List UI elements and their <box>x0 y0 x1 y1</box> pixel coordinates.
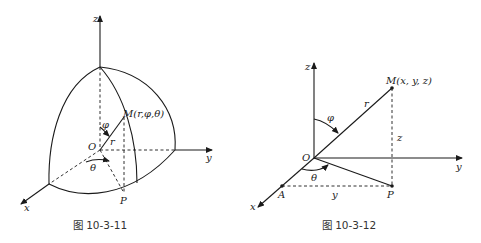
label-y: y <box>205 152 212 163</box>
figure-coordinate-relations: z y x O M(x, y, z) r φ θ z y A P 图 10-3-… <box>250 61 462 231</box>
label-x: x <box>24 202 30 213</box>
point-M <box>390 86 394 90</box>
line-OP <box>100 150 124 193</box>
label-O: O <box>88 141 96 152</box>
label-theta: θ <box>90 162 96 173</box>
label-y-length: y <box>331 189 338 200</box>
label-z: z <box>304 61 311 72</box>
label-M: M(x, y, z) <box>385 75 432 86</box>
point-A <box>280 184 284 188</box>
label-y: y <box>455 161 462 172</box>
figure-caption: 图 10-3-12 <box>322 219 376 231</box>
label-z-length: z <box>396 132 403 143</box>
phi-arrow <box>314 119 338 133</box>
label-z: z <box>92 13 99 24</box>
x-axis <box>258 158 314 207</box>
label-P: P <box>119 195 127 206</box>
point-P <box>390 184 394 188</box>
label-P: P <box>386 189 394 200</box>
x-axis <box>21 184 49 204</box>
line-OP <box>314 158 392 186</box>
figure-caption: 图 10-3-11 <box>73 219 127 231</box>
label-r: r <box>364 98 370 109</box>
label-r: r <box>110 136 116 147</box>
label-theta: θ <box>311 172 317 183</box>
label-A: A <box>277 189 285 200</box>
diagram-canvas: z y x O M(r,φ,θ) r φ θ P 图 10-3-11 z y x… <box>0 0 481 243</box>
label-M: M(r,φ,θ) <box>122 108 164 119</box>
label-phi: φ <box>327 112 334 123</box>
label-x: x <box>250 201 256 212</box>
figure-spherical-octant: z y x O M(r,φ,θ) r φ θ P 图 10-3-11 <box>21 13 212 231</box>
label-O: O <box>302 152 310 163</box>
label-phi: φ <box>102 119 109 130</box>
